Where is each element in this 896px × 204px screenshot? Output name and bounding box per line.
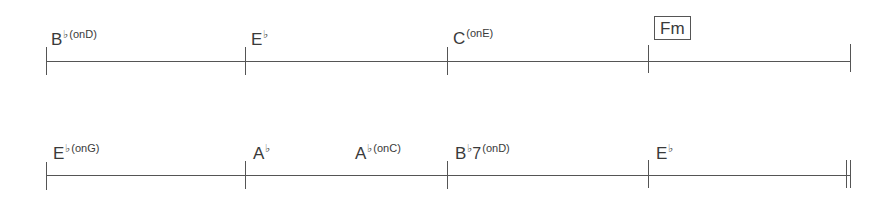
chord-bass: (onD) — [482, 142, 510, 154]
chord-label: B♭7(onD) — [455, 143, 510, 162]
double-barline — [850, 160, 851, 188]
chord-label: E♭(onG) — [53, 143, 99, 162]
chord-bass: (onC) — [373, 142, 401, 154]
chord-label: A♭(onC) — [355, 143, 401, 162]
chord-root: E — [656, 144, 667, 163]
staff-line — [46, 175, 850, 176]
chord-root: E — [53, 144, 64, 163]
chord-root: B — [455, 144, 466, 163]
chord-bass: (onG) — [71, 142, 99, 154]
chord-quality: 7 — [472, 145, 481, 162]
flat-accidental: ♭ — [65, 142, 70, 154]
barline — [447, 161, 448, 189]
chord-root: A — [355, 144, 366, 163]
barline — [46, 162, 47, 190]
barline — [648, 160, 649, 188]
chord-label: A♭ — [253, 143, 270, 162]
flat-accidental: ♭ — [265, 142, 270, 154]
barline — [245, 161, 246, 189]
flat-accidental: ♭ — [367, 142, 372, 154]
flat-accidental: ♭ — [668, 142, 673, 154]
double-barline — [846, 160, 847, 188]
chord-line-2: E♭(onG) A♭ A♭(onC) B♭7(onD) E♭ — [0, 0, 896, 204]
chord-label: E♭ — [656, 143, 673, 162]
chord-root: A — [253, 144, 264, 163]
